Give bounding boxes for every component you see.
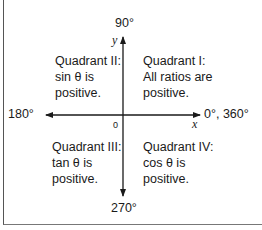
label-180-degrees: 180° (8, 107, 34, 122)
quadrant-iv-text: Quadrant IV: cos θ is positive. (143, 139, 213, 187)
x-axis-label: x (192, 117, 197, 132)
label-0-360-degrees: 0°, 360° (204, 107, 249, 122)
label-90-degrees: 90° (115, 16, 134, 31)
quadrant-i-text: Quadrant I: All ratios are positive. (143, 53, 212, 101)
label-270-degrees: 270° (111, 201, 137, 216)
quadrant-ii-text: Quadrant II: sin θ is positive. (55, 53, 121, 101)
quadrant-iii-text: Quadrant III: tan θ is positive. (52, 139, 121, 187)
origin-label: 0 (113, 118, 118, 133)
y-axis-label: y (112, 33, 117, 48)
